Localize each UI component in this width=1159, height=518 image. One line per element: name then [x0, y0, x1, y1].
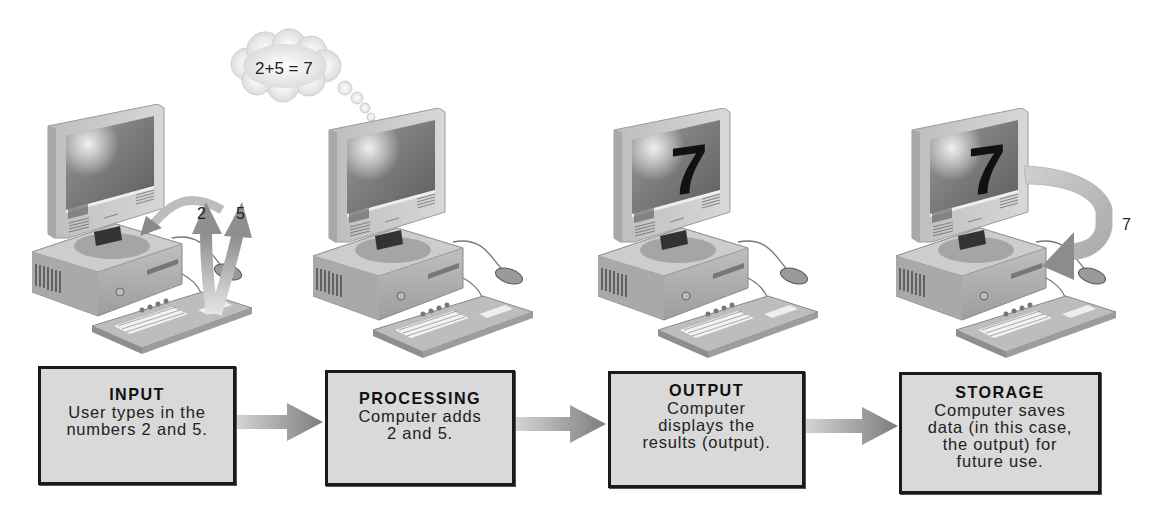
desktop-computer-icon [313, 108, 533, 358]
input-number-two-label: 2 [197, 205, 206, 223]
right-arrow-icon [806, 404, 900, 448]
input-number-five-label: 5 [236, 205, 245, 223]
storage-computer-illustration: 7 [896, 108, 1159, 368]
thought-bubble-text: 2+5 = 7 [255, 59, 313, 79]
desktop-computer-icon [598, 108, 818, 358]
step-description: Computer adds 2 and 5. [328, 408, 512, 442]
information-processing-cycle-diagram: 2 5 2+5 = 7 7 7 7 INPUT [0, 0, 1159, 518]
step-title: PROCESSING [333, 390, 508, 408]
right-arrow-icon [516, 402, 608, 446]
step-box-processing: PROCESSING Computer adds 2 and 5. [325, 370, 515, 486]
output-screen-value: 7 [670, 129, 708, 210]
step-box-input: INPUT User types in the numbers 2 and 5. [38, 366, 236, 485]
step-description: User types in the numbers 2 and 5. [41, 404, 233, 438]
desktop-computer-icon [896, 108, 1116, 358]
step-description: Computer saves data (in this case, the o… [902, 402, 1098, 470]
step-title: OUTPUT [616, 382, 797, 400]
up-arrow-icon [216, 202, 252, 314]
step-box-storage: STORAGE Computer saves data (in this cas… [899, 372, 1101, 494]
step-title: STORAGE [907, 384, 1093, 402]
step-title: INPUT [46, 386, 228, 404]
step-description: Computer displays the results (output). [611, 400, 802, 451]
storage-screen-value: 7 [968, 129, 1006, 210]
storage-value-label: 7 [1122, 216, 1131, 234]
output-computer-illustration: 7 [598, 108, 828, 368]
step-box-output: OUTPUT Computer displays the results (ou… [608, 371, 805, 488]
right-arrow-icon [237, 400, 325, 444]
processing-computer-illustration [313, 108, 543, 368]
input-computer-illustration [32, 104, 262, 364]
